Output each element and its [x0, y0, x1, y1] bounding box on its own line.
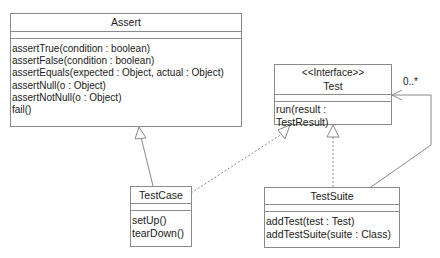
operation: assertFalse(condition : boolean) — [12, 55, 241, 67]
class-assert-name: Assert — [11, 14, 241, 32]
realization-testsuite-test — [327, 125, 339, 187]
class-test-interface: <<Interface>> Test run(result : TestResu… — [274, 64, 392, 125]
operation: addTest(test : Test) — [266, 215, 399, 228]
class-test-operations: run(result : TestResult) — [275, 102, 391, 128]
operation: fail() — [12, 104, 241, 116]
class-testcase-operations: setUp() tearDown() — [131, 211, 191, 239]
class-assert-attributes — [11, 32, 241, 39]
class-testsuite-operations: addTest(test : Test) addTestSuite(suite … — [265, 212, 399, 240]
operation: assertTrue(condition : boolean) — [12, 43, 241, 55]
generalization-testcase-assert — [135, 127, 153, 186]
class-testsuite-name: TestSuite — [265, 188, 399, 205]
operation: tearDown() — [132, 227, 191, 240]
class-assert-operations: assertTrue(condition : boolean) assertFa… — [11, 39, 241, 116]
operation: TestResult) — [276, 116, 391, 129]
class-assert: Assert assertTrue(condition : boolean) a… — [10, 13, 242, 127]
class-testsuite: TestSuite addTest(test : Test) addTestSu… — [264, 187, 400, 248]
operation: assertNotNull(o : Object) — [12, 92, 241, 104]
class-testcase-attributes — [131, 204, 191, 211]
class-test-header: <<Interface>> Test — [275, 65, 391, 95]
stereotype-label: <<Interface>> — [275, 67, 391, 80]
class-test-name: Test — [275, 80, 391, 93]
realization-testcase-test — [191, 125, 290, 193]
operation: assertEquals(expected : Object, actual :… — [12, 67, 241, 79]
class-test-attributes — [275, 95, 391, 102]
operation: setUp() — [132, 214, 191, 227]
operation: addTestSuite(suite : Class) — [266, 228, 399, 241]
multiplicity-label: 0..* — [403, 76, 418, 87]
class-testsuite-attributes — [265, 205, 399, 212]
operation: assertNull(o : Object) — [12, 80, 241, 92]
class-testcase-name: TestCase — [131, 187, 191, 204]
class-testcase: TestCase setUp() tearDown() — [130, 186, 192, 247]
operation: run(result : — [276, 103, 391, 116]
